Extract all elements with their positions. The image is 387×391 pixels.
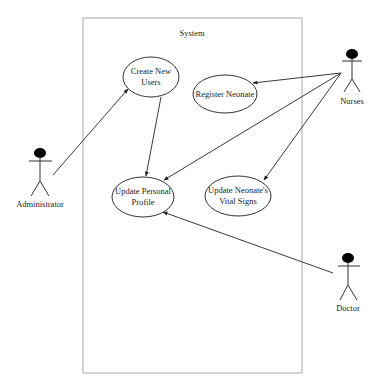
- actor-leg-left: [31, 181, 40, 196]
- actor-label: Doctor: [336, 303, 360, 313]
- actor-leg-right: [348, 285, 357, 300]
- actor-doctor[interactable]: Doctor: [336, 253, 360, 313]
- association-create-new-users-update-personal-profile[interactable]: [146, 97, 161, 176]
- actor-head-icon: [342, 253, 354, 263]
- use-case-diagram: System Create New Users Register Neonate…: [0, 0, 387, 391]
- use-case-label-line: Users: [141, 77, 160, 87]
- use-case-create-new-users[interactable]: Create New Users: [123, 57, 179, 97]
- actor-head-icon: [34, 148, 46, 158]
- actor-leg-left: [340, 285, 348, 300]
- association-doctor-update-personal-profile[interactable]: [163, 212, 333, 273]
- use-case-update-personal-profile[interactable]: Update Personal Profile: [112, 177, 174, 217]
- use-case-update-neonate-vital-signs[interactable]: Update Neonate's Vital Signs: [205, 176, 271, 216]
- actor-leg-left: [344, 79, 352, 92]
- use-case-label-line: Update Neonate's: [208, 185, 268, 195]
- use-case-label-line: Profile: [131, 197, 154, 207]
- use-case-label-line: Vital Signs: [219, 196, 257, 206]
- actor-label: Administrator: [16, 199, 64, 209]
- use-case-label-line: Create New: [131, 66, 172, 76]
- actor-label: Nurses: [340, 96, 364, 106]
- actor-leg-right: [352, 79, 360, 92]
- actor-head-icon: [346, 49, 358, 59]
- system-label: System: [179, 28, 204, 38]
- actor-leg-right: [40, 181, 49, 196]
- use-case-label-line: Update Personal: [115, 186, 172, 196]
- association-administrator-create-new-users[interactable]: [53, 89, 128, 175]
- actor-administrator[interactable]: Administrator: [16, 148, 64, 209]
- use-case-register-neonate[interactable]: Register Neonate: [193, 75, 257, 113]
- actor-nurses[interactable]: Nurses: [340, 49, 364, 106]
- use-case-label-line: Register Neonate: [196, 89, 255, 99]
